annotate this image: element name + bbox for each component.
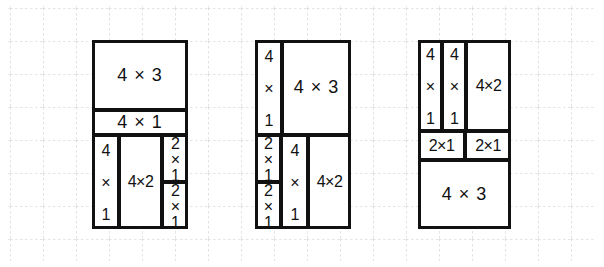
diagram-canvas: 4 × 34 × 14 × 14×22×12×14 × 14 × 32×12×1… — [0, 0, 604, 267]
figure-2: 4 × 14 × 32×12×14 × 14×2 — [255, 40, 351, 229]
figure-outline — [92, 40, 188, 229]
figure-1: 4 × 34 × 14 × 14×22×12×1 — [92, 40, 188, 229]
figure-outline — [255, 40, 351, 229]
figure-3: 4 × 14 × 14×22×12×14 × 3 — [418, 40, 511, 229]
figure-outline — [418, 40, 511, 229]
